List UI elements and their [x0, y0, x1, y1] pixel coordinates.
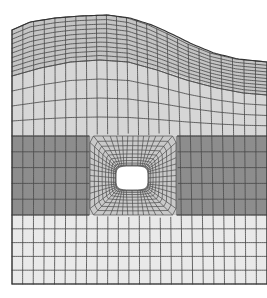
mesh-canvas: [0, 0, 267, 298]
fem-mesh-figure: [0, 0, 267, 298]
hole-cutout: [116, 166, 148, 190]
